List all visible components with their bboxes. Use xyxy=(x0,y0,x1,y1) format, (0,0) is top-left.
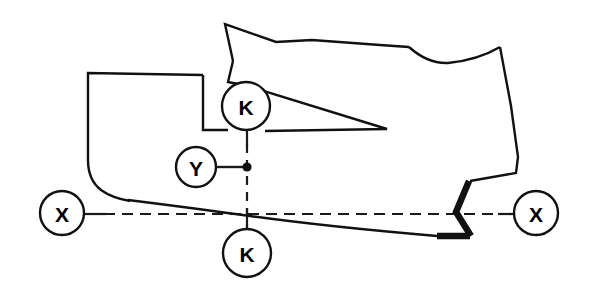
diagram-canvas: K Y K X X xyxy=(0,0,592,293)
outline-upper-right-notch xyxy=(409,47,500,63)
balloon-x-left-label: X xyxy=(55,203,69,226)
balloon-k-lower-label: K xyxy=(239,243,254,266)
balloon-y-label: Y xyxy=(189,157,203,180)
balloon-k-upper-label: K xyxy=(238,96,253,119)
balloon-x-right-label: X xyxy=(529,203,543,226)
balloon-x-right[interactable]: X xyxy=(514,191,558,235)
outline-right-zigzag-bold xyxy=(456,181,471,236)
balloon-y[interactable]: Y xyxy=(176,147,216,187)
schematic-drawing: K Y K X X xyxy=(0,0,592,293)
balloon-x-left[interactable]: X xyxy=(40,191,84,235)
outline-top-ridge xyxy=(225,24,409,61)
balloon-k-lower[interactable]: K xyxy=(223,229,271,277)
balloon-k-upper[interactable]: K xyxy=(222,82,270,130)
node-dot xyxy=(242,162,251,171)
outline-right-edge xyxy=(470,47,518,181)
outline-bottom-curve xyxy=(128,200,437,236)
outline-wedge-spike xyxy=(251,87,387,131)
